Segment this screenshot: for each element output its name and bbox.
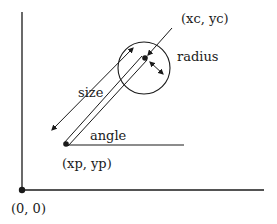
- center-dot: [142, 55, 148, 61]
- origin-label: (0, 0): [11, 202, 46, 215]
- angle-label: angle: [90, 129, 126, 142]
- axes: [19, 12, 264, 193]
- size-label: size: [78, 86, 103, 99]
- pivot-dot: [63, 141, 69, 147]
- diagram-canvas: (xc, yc) radius size angle (xp, yp) (0, …: [0, 0, 277, 224]
- origin-dot: [19, 187, 25, 193]
- radius-arrow: [150, 62, 163, 74]
- radius-circle: [118, 42, 170, 94]
- radius-label: radius: [177, 50, 219, 63]
- pivot-label: (xp, yp): [62, 157, 112, 170]
- center-pointer: [148, 28, 172, 55]
- center-label: (xc, yc): [181, 12, 229, 25]
- diagram-graphics: [0, 0, 277, 224]
